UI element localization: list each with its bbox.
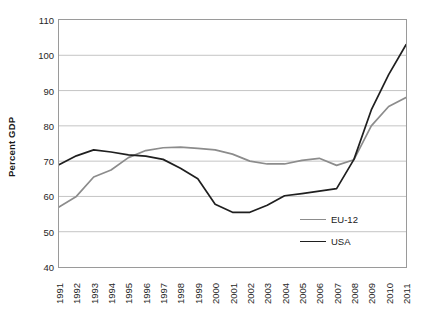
x-axis-tick-2010: 2010 bbox=[384, 272, 395, 304]
x-axis-tick-1999: 1999 bbox=[193, 272, 204, 304]
x-axis-tick-2005: 2005 bbox=[297, 272, 308, 304]
legend-label: USA bbox=[331, 236, 351, 247]
x-axis-tick-2007: 2007 bbox=[332, 272, 343, 304]
x-axis-tick-2006: 2006 bbox=[314, 272, 325, 304]
x-axis-tick-1995: 1995 bbox=[123, 272, 134, 304]
x-axis-tick-2003: 2003 bbox=[262, 272, 273, 304]
x-axis-tick-2002: 2002 bbox=[245, 272, 256, 304]
chart-container: Percent GDP 110100908070605040 199119921… bbox=[0, 0, 425, 309]
x-axis-tick-2001: 2001 bbox=[228, 272, 239, 304]
x-axis-tick-2009: 2009 bbox=[366, 272, 377, 304]
y-axis-title: Percent GDP bbox=[2, 92, 20, 202]
y-axis-tick-labels: 110100908070605040 bbox=[21, 0, 54, 309]
x-axis-tick-1992: 1992 bbox=[71, 272, 82, 304]
legend-swatch-usa bbox=[300, 241, 326, 242]
legend-item-eu-12[interactable]: EU-12 bbox=[300, 214, 358, 225]
x-axis-tick-1994: 1994 bbox=[106, 272, 117, 304]
x-axis-tick-1993: 1993 bbox=[89, 272, 100, 304]
y-axis-tick-50: 50 bbox=[24, 226, 54, 237]
x-axis-tick-1997: 1997 bbox=[158, 272, 169, 304]
plot-svg bbox=[59, 20, 406, 267]
x-axis-tick-2000: 2000 bbox=[210, 272, 221, 304]
x-axis-tick-2004: 2004 bbox=[280, 272, 291, 304]
y-axis-tick-70: 70 bbox=[24, 156, 54, 167]
y-axis-tick-40: 40 bbox=[24, 262, 54, 273]
legend-label: EU-12 bbox=[331, 214, 358, 225]
plot-area bbox=[58, 19, 407, 268]
y-axis-tick-110: 110 bbox=[24, 15, 54, 26]
y-axis-tick-100: 100 bbox=[24, 50, 54, 61]
x-axis-tick-2008: 2008 bbox=[349, 272, 360, 304]
legend-swatch-eu-12 bbox=[300, 219, 326, 220]
y-axis-tick-90: 90 bbox=[24, 85, 54, 96]
y-axis-tick-80: 80 bbox=[24, 120, 54, 131]
x-axis-tick-1996: 1996 bbox=[141, 272, 152, 304]
x-axis-tick-1991: 1991 bbox=[54, 272, 65, 304]
x-axis-tick-1998: 1998 bbox=[175, 272, 186, 304]
legend-item-usa[interactable]: USA bbox=[300, 236, 351, 247]
x-axis-tick-2011: 2011 bbox=[401, 272, 412, 304]
series-line-usa bbox=[59, 45, 406, 213]
y-axis-tick-60: 60 bbox=[24, 191, 54, 202]
